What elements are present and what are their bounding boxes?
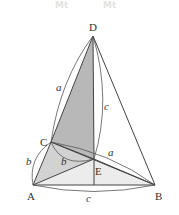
vertex-label-B: B — [155, 190, 162, 202]
vertex-label-D: D — [89, 21, 97, 33]
watermark-right: Mt — [103, 0, 117, 10]
arc-AB — [33, 185, 155, 192]
edge-label-CB: a — [108, 146, 114, 158]
edge-label-AB: c — [86, 192, 91, 204]
edge-label-DC: a — [56, 81, 62, 93]
edge-label-CA: b — [26, 155, 32, 167]
face-DCE-shaded — [51, 36, 94, 159]
vertex-label-A: A — [27, 190, 35, 202]
edge-label-DE: c — [104, 100, 109, 112]
arc-DE — [93, 36, 103, 159]
tetrahedron-net-diagram: Mt Mt D C E A B a c a b b c — [0, 0, 179, 215]
edge-label-CE: b — [61, 155, 67, 167]
watermark-left: Mt — [55, 0, 69, 10]
vertex-label-C: C — [40, 136, 47, 148]
vertex-label-E: E — [95, 165, 102, 177]
